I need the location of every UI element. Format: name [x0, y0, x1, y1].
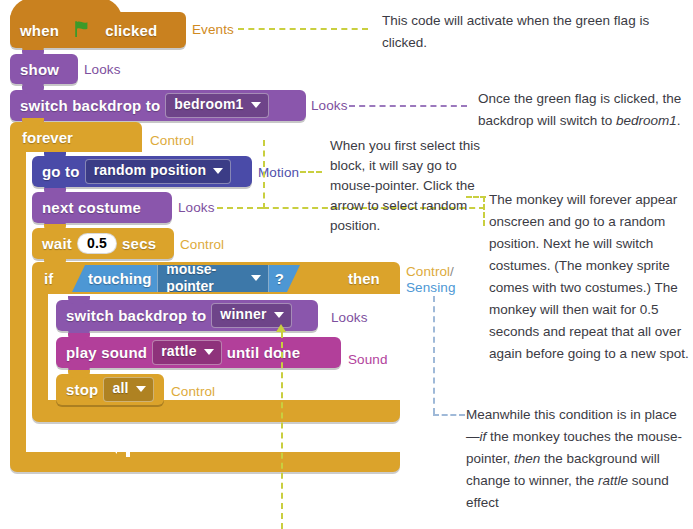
annotation-flag-note: This code will activate when the green f… — [382, 10, 682, 54]
block-label-switch-backdrop-winner: switch backdrop to — [66, 307, 206, 324]
dropdown-sound-rattle[interactable]: rattle — [152, 340, 221, 365]
dropdown-value-mouse-pointer: mouse-pointer — [166, 261, 244, 296]
leader-line-motion — [300, 171, 322, 173]
block-label-show: show — [20, 61, 59, 78]
annotation-dropdown-note: When you first select this block, it wil… — [330, 136, 482, 236]
annotation-forever-note: The monkey will forever appear onscreen … — [489, 189, 693, 365]
block-label-until-done: until done — [227, 344, 301, 361]
dropdown-go-to-target[interactable]: random position — [85, 159, 232, 184]
block-label-when: when — [20, 22, 59, 39]
block-label-stop: stop — [66, 381, 98, 398]
green-flag-icon — [71, 19, 91, 39]
category-label-looks-show: Looks — [84, 62, 121, 77]
category-label-looks-winner: Looks — [331, 310, 368, 325]
block-label-then: then — [348, 270, 380, 287]
chevron-down-icon — [251, 102, 261, 108]
block-label-play-sound: play sound — [66, 344, 147, 361]
block-label-touching: touching — [88, 270, 151, 287]
block-when-flag-clicked[interactable]: when clicked — [10, 12, 186, 48]
leader-line-looks-costume — [217, 207, 263, 209]
annotation-backdrop-text-2: . — [677, 113, 681, 128]
leader-arrow-winner — [276, 324, 286, 332]
block-stop-all[interactable]: stop all — [56, 374, 164, 405]
dropdown-value-winner: winner — [220, 306, 266, 324]
annotation-backdrop-note: Once the green flag is clicked, the back… — [478, 88, 687, 132]
leader-line-if — [433, 414, 465, 416]
leader-line-events — [238, 28, 368, 30]
forever-left-spine — [10, 152, 26, 452]
category-label-looks-backdrop: Looks — [311, 98, 348, 113]
leader-line-if-vertical — [433, 296, 435, 414]
block-label-question-mark: ? — [275, 270, 284, 287]
category-label-sensing: Sensing — [406, 280, 456, 295]
block-label-clicked: clicked — [105, 22, 157, 39]
block-next-costume[interactable]: next costume — [32, 192, 172, 223]
dropdown-value-random-position: random position — [94, 162, 207, 180]
block-show[interactable]: show — [10, 54, 78, 84]
leader-line-winner-vertical — [281, 332, 283, 529]
block-label-go-to: go to — [42, 163, 80, 180]
forever-footer — [10, 452, 400, 472]
chevron-down-icon — [136, 386, 146, 392]
block-wait-secs[interactable]: wait 0.5 secs — [32, 228, 174, 259]
category-label-sound: Sound — [348, 352, 388, 367]
loop-arrow-icon — [112, 443, 134, 464]
dropdown-backdrop-bedroom1[interactable]: bedroom1 — [165, 93, 268, 118]
annotation-if-note: Meanwhile this condition is in place—if … — [466, 404, 684, 514]
category-label-control-forever: Control — [150, 133, 194, 148]
block-go-to-random-position[interactable]: go to random position — [32, 156, 252, 187]
block-label-next-costume: next costume — [42, 199, 141, 216]
category-label-slash: / — [450, 264, 454, 279]
block-label-switch-backdrop: switch backdrop to — [20, 97, 160, 114]
chevron-down-icon — [213, 168, 223, 174]
annotation-if-italic-then: then — [514, 451, 540, 466]
block-touching-mouse-pointer[interactable]: touching mouse-pointer ? — [72, 265, 300, 292]
input-wait-seconds[interactable]: 0.5 — [77, 233, 117, 254]
block-label-secs: secs — [122, 235, 156, 252]
dropdown-value-all: all — [112, 380, 128, 398]
category-label-control-if: Control — [406, 264, 450, 279]
block-label-if: if — [44, 270, 53, 287]
dropdown-stop-target[interactable]: all — [103, 377, 153, 402]
chevron-down-icon — [274, 312, 284, 318]
chevron-down-icon — [251, 275, 261, 281]
leader-line-forever-vertical — [483, 196, 485, 226]
category-label-events: Events — [192, 22, 234, 37]
block-label-wait: wait — [42, 235, 72, 252]
category-label-control-stop: Control — [171, 384, 215, 399]
annotation-backdrop-italic: bedroom1 — [616, 113, 677, 128]
leader-line-looks-backdrop — [349, 105, 467, 107]
if-then-left-spine — [32, 294, 48, 400]
block-switch-backdrop-bedroom1[interactable]: switch backdrop to bedroom1 — [10, 90, 306, 121]
category-label-looks-costume: Looks — [178, 200, 215, 215]
annotation-if-italic-rattle: rattle — [598, 473, 628, 488]
block-play-sound-until-done[interactable]: play sound rattle until done — [56, 337, 341, 368]
dropdown-value-rattle: rattle — [161, 343, 196, 361]
block-label-forever: forever — [22, 129, 73, 146]
forever-header: forever — [10, 122, 142, 152]
chevron-down-icon — [204, 349, 214, 355]
dropdown-value-bedroom1: bedroom1 — [174, 96, 243, 114]
category-label-control-wait: Control — [180, 237, 224, 252]
